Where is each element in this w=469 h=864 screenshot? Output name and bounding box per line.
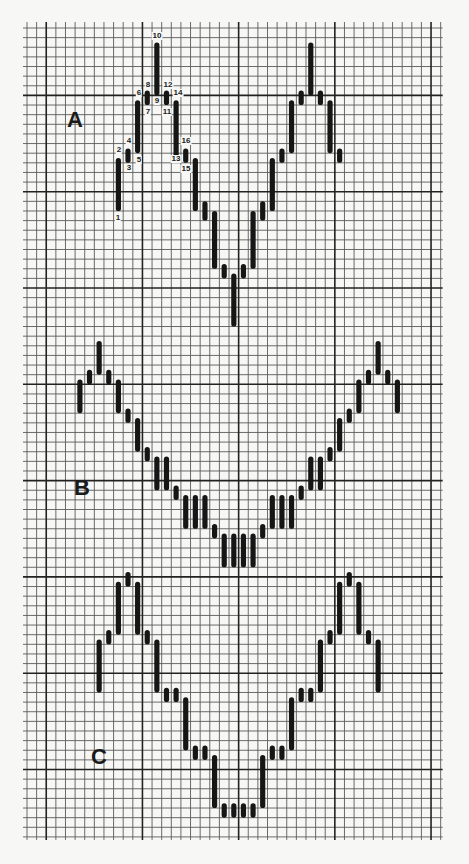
price-bar bbox=[337, 582, 342, 635]
price-bar bbox=[212, 524, 217, 538]
price-bar bbox=[347, 408, 352, 422]
price-bar bbox=[299, 485, 304, 499]
price-bar bbox=[193, 745, 198, 759]
price-bar bbox=[202, 201, 207, 220]
point-number-label: 14 bbox=[173, 89, 184, 97]
price-bar bbox=[327, 630, 332, 644]
price-bar bbox=[106, 370, 111, 384]
price-bar bbox=[135, 100, 140, 153]
price-bar bbox=[145, 630, 150, 644]
price-bar bbox=[250, 534, 255, 568]
price-bar bbox=[250, 803, 255, 817]
price-bar bbox=[222, 534, 227, 568]
price-bar bbox=[308, 457, 313, 491]
price-bar bbox=[289, 100, 294, 153]
price-bar bbox=[145, 447, 150, 461]
price-bar bbox=[174, 688, 179, 702]
point-number-label: 11 bbox=[162, 108, 172, 116]
point-number-label: 7 bbox=[145, 108, 151, 116]
price-bar bbox=[125, 148, 130, 162]
point-number-label: 15 bbox=[181, 165, 192, 173]
price-bar bbox=[212, 755, 217, 808]
price-bar bbox=[145, 91, 150, 105]
panel-c-label: C bbox=[91, 746, 107, 768]
price-bar bbox=[174, 485, 179, 499]
point-number-label: 13 bbox=[171, 155, 182, 163]
price-bar bbox=[270, 495, 275, 529]
panel-a-label: A bbox=[67, 109, 83, 131]
price-bar bbox=[164, 688, 169, 702]
price-bar bbox=[260, 201, 265, 220]
price-bar bbox=[289, 495, 294, 529]
price-bar bbox=[270, 745, 275, 759]
price-bar bbox=[376, 341, 381, 375]
price-bar bbox=[125, 572, 130, 586]
price-bar bbox=[106, 630, 111, 644]
price-bar bbox=[385, 370, 390, 384]
price-bar bbox=[308, 42, 313, 95]
price-bar bbox=[279, 495, 284, 529]
price-bar bbox=[289, 697, 294, 750]
price-bar bbox=[270, 158, 275, 211]
price-bar bbox=[366, 370, 371, 384]
price-bar bbox=[135, 582, 140, 635]
price-bar bbox=[308, 688, 313, 702]
price-bar bbox=[125, 408, 130, 422]
price-bar bbox=[231, 534, 236, 568]
price-bar bbox=[337, 418, 342, 452]
point-number-label: 1 bbox=[115, 214, 121, 222]
point-number-label: 4 bbox=[126, 137, 132, 145]
price-bar bbox=[154, 640, 159, 693]
price-bar bbox=[318, 457, 323, 491]
price-bar bbox=[279, 148, 284, 162]
price-bar bbox=[135, 418, 140, 452]
price-bar bbox=[183, 697, 188, 750]
price-bar bbox=[337, 148, 342, 162]
price-bar bbox=[164, 91, 169, 105]
point-number-label: 8 bbox=[145, 81, 151, 89]
price-bar bbox=[174, 100, 179, 158]
point-number-label: 12 bbox=[163, 81, 174, 89]
price-bar bbox=[97, 341, 102, 375]
price-bar bbox=[250, 211, 255, 269]
price-bar bbox=[202, 745, 207, 759]
price-bar bbox=[116, 158, 121, 211]
price-bar bbox=[347, 572, 352, 586]
price-bar bbox=[279, 745, 284, 759]
grid-major-lines bbox=[23, 22, 443, 840]
price-bar bbox=[116, 380, 121, 414]
point-number-label: 16 bbox=[181, 137, 192, 145]
price-bar bbox=[164, 457, 169, 491]
price-bar bbox=[193, 158, 198, 211]
price-bar bbox=[231, 803, 236, 817]
point-number-label: 9 bbox=[154, 97, 160, 105]
panel-b-label: B bbox=[74, 477, 90, 499]
price-bar bbox=[116, 582, 121, 635]
price-bar bbox=[183, 148, 188, 162]
price-bar bbox=[202, 495, 207, 529]
price-bar bbox=[299, 688, 304, 702]
price-bar bbox=[356, 582, 361, 635]
price-bar bbox=[318, 640, 323, 693]
price-bar bbox=[193, 495, 198, 529]
price-bar bbox=[241, 264, 246, 278]
price-bar bbox=[366, 630, 371, 644]
price-bar bbox=[87, 370, 92, 384]
price-bar bbox=[260, 755, 265, 808]
price-bar bbox=[318, 91, 323, 105]
price-bar bbox=[356, 380, 361, 414]
price-bar bbox=[183, 495, 188, 529]
point-number-label: 10 bbox=[152, 32, 163, 40]
price-bar bbox=[376, 640, 381, 693]
price-bar bbox=[231, 274, 236, 327]
price-bar bbox=[260, 524, 265, 538]
price-bar bbox=[327, 447, 332, 461]
price-bar bbox=[154, 457, 159, 491]
price-bar bbox=[241, 534, 246, 568]
price-bar bbox=[222, 803, 227, 817]
price-bar bbox=[77, 380, 82, 414]
point-number-label: 5 bbox=[136, 156, 142, 164]
point-number-label: 3 bbox=[126, 164, 132, 172]
price-bar bbox=[241, 803, 246, 817]
price-bar bbox=[327, 100, 332, 153]
